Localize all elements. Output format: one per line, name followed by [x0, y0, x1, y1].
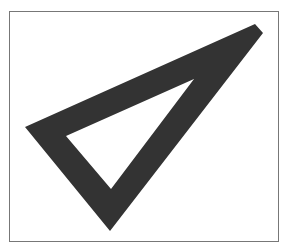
set-square-figure: [0, 0, 288, 252]
set-square-shape: [25, 24, 263, 231]
